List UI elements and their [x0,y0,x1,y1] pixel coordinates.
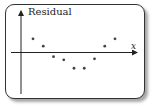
data-point [93,57,96,60]
residual-plot: Residual x [0,0,155,108]
data-point [83,67,86,70]
data-point [52,55,55,58]
data-point [103,45,106,48]
data-point [73,67,76,70]
data-point [32,37,35,40]
x-axis-label: x [131,41,136,51]
data-point [62,58,65,61]
data-point [114,37,117,40]
y-axis-label: Residual [28,6,72,17]
data-point [42,45,45,48]
data-points [32,37,117,69]
